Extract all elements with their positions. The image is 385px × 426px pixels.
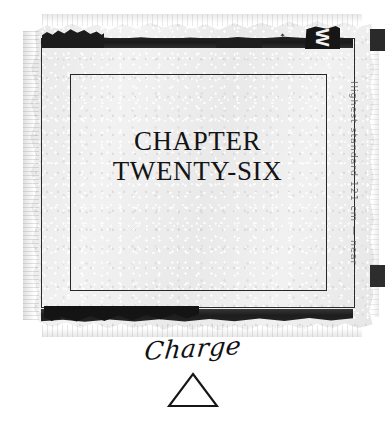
top-corner-ink-block <box>370 29 385 51</box>
caption-symbol <box>0 370 385 410</box>
handwritten-margin-annotation: Highest standard 121 cm — near <box>346 81 362 281</box>
right-margin-ink-block <box>370 265 385 287</box>
chapter-title-line-2: TWENTY-SIX <box>70 156 325 186</box>
caption-block: Charge <box>0 334 385 410</box>
chapter-title-line-1: CHAPTER <box>70 126 325 156</box>
rotated-arrow-icon: ← <box>277 29 293 47</box>
torn-paper-sheet: W ← CHAPTER TWENTY-SIX Highest standard … <box>28 18 376 333</box>
caption-script-word: Charge <box>143 331 243 367</box>
rotated-w-glyph: W <box>312 26 332 48</box>
chapter-title: CHAPTER TWENTY-SIX <box>70 126 325 186</box>
triangle-outline-icon <box>165 370 221 410</box>
